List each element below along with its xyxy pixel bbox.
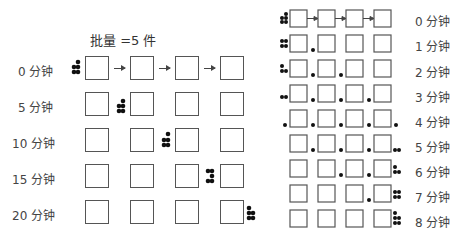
single-piece-flow-grid — [0, 0, 458, 239]
